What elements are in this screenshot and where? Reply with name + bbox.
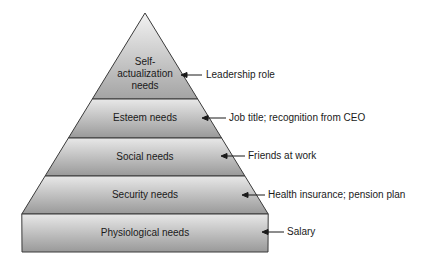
annotation-leadership: Leadership role [206, 69, 275, 81]
tier-label-self-actualization: Self- actualization needs [105, 56, 185, 92]
annotation-social: Friends at work [248, 150, 316, 162]
label-line: needs [105, 80, 185, 92]
tier-label-esteem: Esteem needs [85, 112, 205, 124]
arrow-icon [202, 116, 226, 121]
arrow-icon [262, 230, 284, 235]
tier-label-social: Social needs [85, 151, 205, 163]
tier-label-security: Security needs [75, 189, 215, 201]
annotation-esteem: Job title; recognition from CEO [229, 112, 365, 124]
annotation-physiological: Salary [287, 226, 315, 238]
tier-label-physiological: Physiological needs [65, 227, 225, 239]
label-line: actualization [105, 68, 185, 80]
annotation-security: Health insurance; pension plan [268, 189, 405, 201]
label-line: Self- [105, 56, 185, 68]
